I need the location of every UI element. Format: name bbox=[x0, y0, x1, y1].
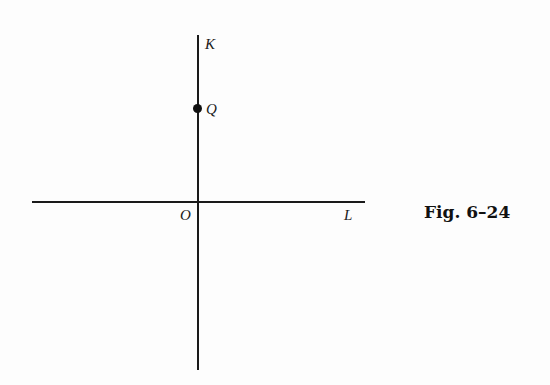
origin-label: O bbox=[180, 208, 191, 223]
point-q-label: Q bbox=[206, 102, 217, 117]
figure-canvas: K L O Q Fig. 6–24 bbox=[0, 0, 550, 385]
point-q-marker bbox=[193, 104, 202, 113]
figure-caption: Fig. 6–24 bbox=[424, 204, 510, 221]
l-axis-line bbox=[32, 201, 365, 203]
k-axis-label: K bbox=[205, 37, 215, 52]
k-axis-line bbox=[197, 35, 199, 370]
l-axis-label: L bbox=[344, 208, 352, 223]
